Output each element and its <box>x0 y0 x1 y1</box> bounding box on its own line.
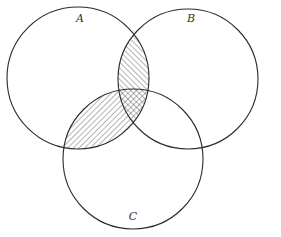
label-c: C <box>129 210 138 223</box>
venn-diagram: A B C <box>0 0 281 237</box>
region-a-and-c-only <box>0 0 281 237</box>
region-a-and-b-only <box>0 0 281 237</box>
label-b: B <box>186 12 195 25</box>
label-a: A <box>75 12 84 25</box>
region-a-b-c <box>0 0 281 237</box>
